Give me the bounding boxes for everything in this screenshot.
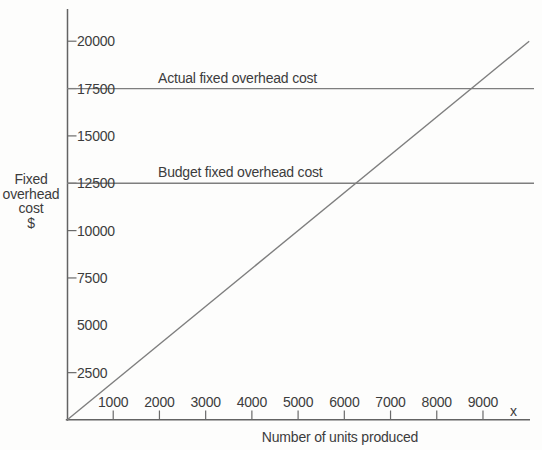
y-tick-label: 17500 xyxy=(77,82,115,96)
y-tick-label: 15000 xyxy=(77,129,115,143)
budget-line-label: Budget fixed overhead cost xyxy=(158,164,322,180)
actual-line-label: Actual fixed overhead cost xyxy=(158,70,317,86)
y-axis-title-line: overhead xyxy=(0,187,62,202)
x-tick-label: 9000 xyxy=(453,396,513,409)
y-tick-label: 7500 xyxy=(77,271,107,285)
y-axis-title: Fixed overhead cost $ xyxy=(0,172,62,230)
y-tick-label: 12500 xyxy=(77,176,115,190)
applied-fixed-overhead-line xyxy=(67,41,529,420)
x-axis-title: Number of units produced xyxy=(262,429,418,445)
y-tick-label: 2500 xyxy=(77,366,107,380)
y-tick-label: 20000 xyxy=(77,34,115,48)
y-tick-label: 5000 xyxy=(77,318,107,332)
y-tick-label: 10000 xyxy=(77,224,115,238)
chart-figure: Fixed overhead cost $ Number of units pr… xyxy=(0,0,542,450)
y-axis-title-line: Fixed xyxy=(0,172,62,187)
y-axis-title-line: $ xyxy=(0,216,62,231)
y-axis-title-line: cost xyxy=(0,201,62,216)
